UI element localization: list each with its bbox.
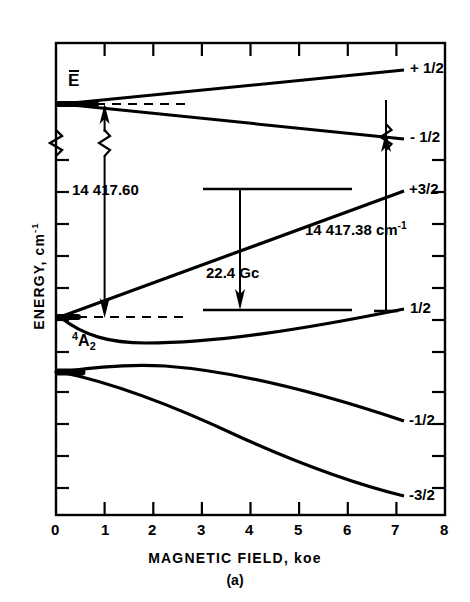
curve-ground-plus-three-half	[60, 191, 404, 317]
level-label-ground-plus-three-half: +3/2	[409, 181, 439, 196]
curve-ground-minus-half	[60, 365, 404, 421]
excited-state-label-text: E	[68, 72, 79, 89]
x-tick-8: 8	[440, 522, 448, 537]
y-axis-title-unit: cm	[31, 233, 47, 255]
transition-right-unit: cm	[376, 221, 398, 238]
transition-arrow-right	[374, 100, 398, 311]
x-tick-0: 0	[51, 522, 59, 537]
transition-arrow-left	[99, 104, 110, 318]
ground-state-label: 4A2	[72, 333, 96, 349]
x-tick-1: 1	[101, 522, 109, 537]
transition-right-unit-exponent: -1	[398, 220, 407, 231]
excited-state-label: E	[68, 72, 79, 89]
bottom-tick-marks	[105, 502, 397, 515]
x-tick-4: 4	[245, 522, 253, 537]
level-label-ground-minus-half: -1/2	[409, 412, 435, 427]
ground-state-label-subscript: 2	[90, 340, 96, 352]
level-label-ground-minus-three-half: -3/2	[409, 487, 435, 502]
panel-label: (a)	[0, 573, 470, 587]
top-tick-marks	[105, 43, 397, 56]
y-axis-title: ENERGY, cm-1	[31, 191, 47, 361]
x-tick-7: 7	[391, 522, 399, 537]
energy-level-diagram: E 4A2 14 417.60 14 417.38 cm-1 22.4 Gc +…	[0, 0, 470, 602]
right-tick-marks	[432, 160, 445, 488]
y-axis-title-main: ENERGY,	[31, 260, 47, 329]
transition-left-label: 14 417.60	[72, 182, 139, 197]
level-label-excited-minus-half: - 1/2	[410, 129, 440, 144]
curve-excited-plus-half	[62, 70, 404, 104]
curve-ground-plus-half	[60, 309, 404, 343]
x-axis-title: MAGNETIC FIELD, koe	[0, 551, 470, 565]
curve-ground-minus-three-half	[60, 372, 404, 496]
transition-right-value: 14 417.38	[305, 221, 372, 238]
x-tick-5: 5	[294, 522, 302, 537]
x-tick-2: 2	[148, 522, 156, 537]
ground-state-label-text: A	[78, 332, 90, 349]
figure-canvas	[0, 0, 470, 602]
microwave-transition-arrow	[203, 189, 352, 310]
level-label-excited-plus-half: + 1/2	[410, 60, 444, 75]
x-tick-6: 6	[343, 522, 351, 537]
level-label-ground-plus-half: 1/2	[410, 300, 431, 315]
transition-right-label: 14 417.38 cm-1	[305, 222, 407, 237]
microwave-label: 22.4 Gc	[206, 265, 259, 280]
y-axis-title-unit-exponent: -1	[29, 222, 40, 233]
curve-excited-minus-half	[62, 104, 404, 139]
x-tick-3: 3	[197, 522, 205, 537]
